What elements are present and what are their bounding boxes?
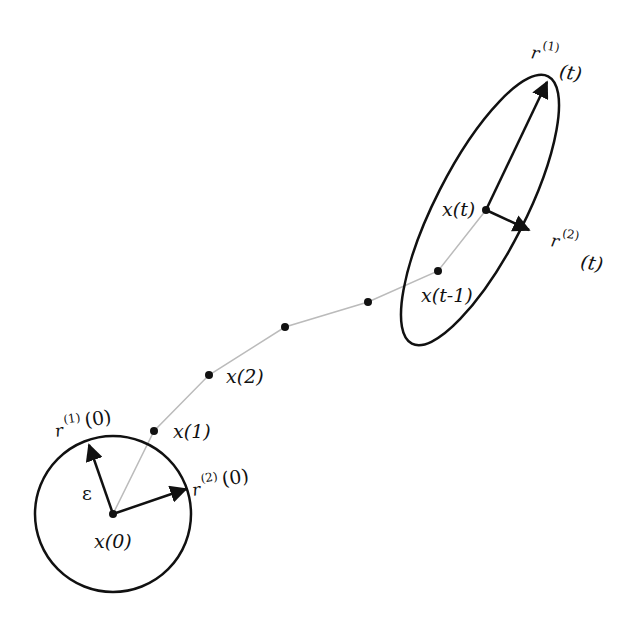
point-xt <box>482 206 490 214</box>
label-xt-1: x(t-1) <box>421 284 473 306</box>
trajectory-points <box>109 206 490 518</box>
r2-t-arrow <box>486 210 529 230</box>
label-x1: x(1) <box>173 420 211 442</box>
point-x0 <box>109 510 117 518</box>
point-x2 <box>205 371 213 379</box>
deformed-ellipse <box>372 56 588 364</box>
label-epsilon: ε <box>82 482 92 504</box>
r2-0-sup: (2) <box>200 469 219 485</box>
label-r1-t: r (1) (t) <box>527 36 587 85</box>
point-x4 <box>364 298 372 306</box>
point-xt-1 <box>434 267 442 275</box>
r1-t-arg: (t) <box>558 59 584 85</box>
r2-0-arg: (0) <box>220 464 250 490</box>
label-xt: x(t) <box>442 198 475 220</box>
r1-0-arg: (0) <box>83 405 113 431</box>
r2-t-sup: (2) <box>561 226 580 243</box>
trajectory-line <box>113 210 486 514</box>
diagram-canvas: x(0) ε x(1) x(2) x(t-1) x(t) r (1) (0) r… <box>0 0 637 629</box>
label-x2: x(2) <box>226 365 264 387</box>
point-x3 <box>281 323 289 331</box>
r1-0-sup: (1) <box>62 410 81 426</box>
label-r2-0: r (2) (0) <box>190 464 251 500</box>
label-r2-t: r (2) (t) <box>547 224 609 275</box>
r1-t-sup: (1) <box>542 38 561 55</box>
r1-0-arrow <box>89 445 113 514</box>
label-x0: x(0) <box>94 530 132 552</box>
r2-t-base: r <box>549 230 561 251</box>
r2-t-arg: (t) <box>579 250 605 276</box>
r1-t-base: r <box>530 42 542 63</box>
point-x1 <box>150 427 158 435</box>
